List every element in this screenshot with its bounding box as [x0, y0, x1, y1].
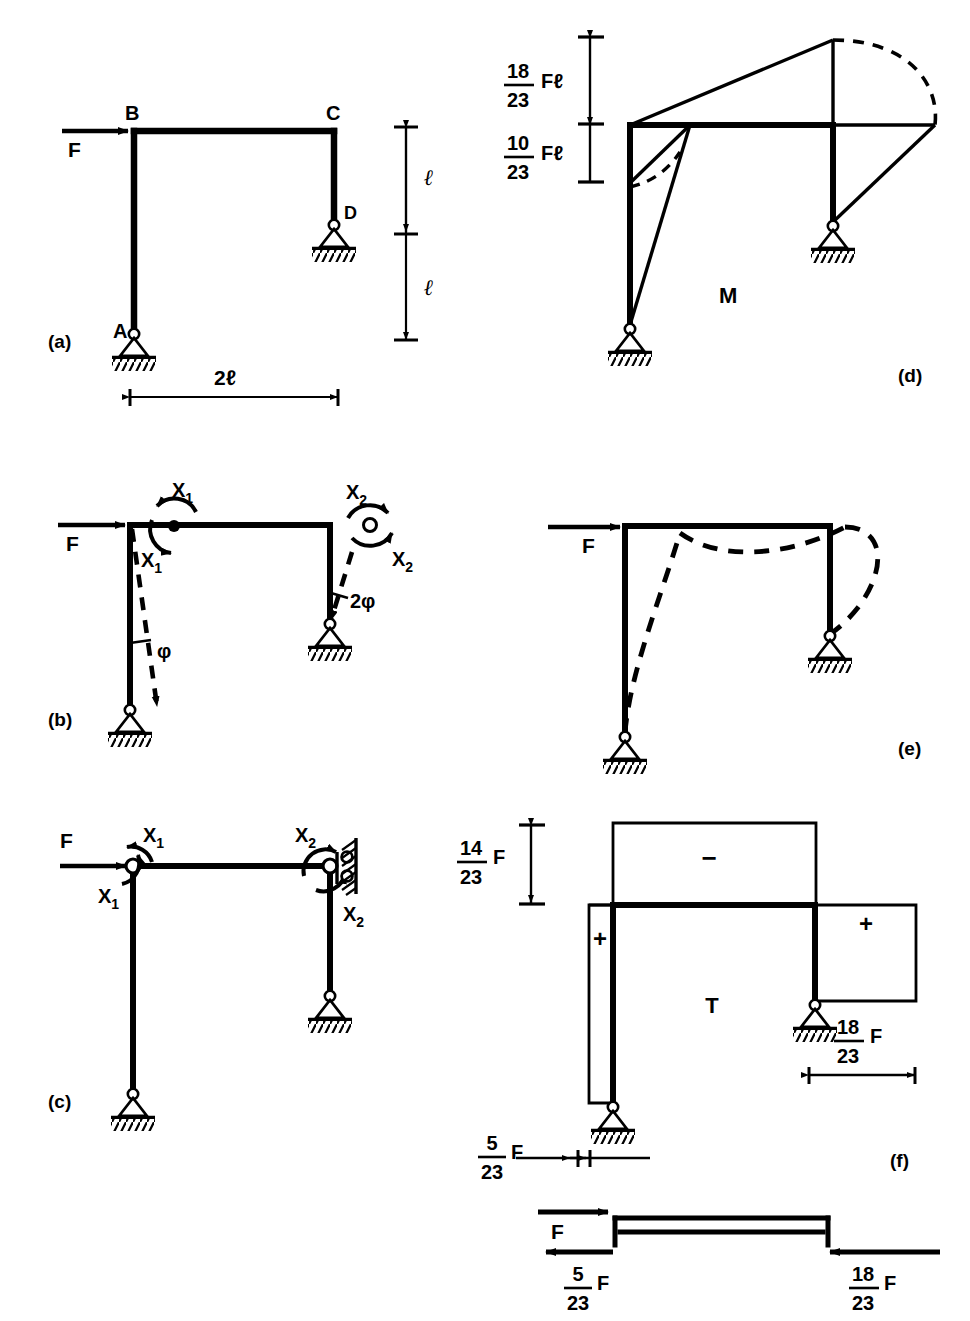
frame-outline-b	[130, 525, 330, 706]
frame-outline-a	[134, 131, 334, 330]
frac-den-top-f: 23	[460, 866, 482, 888]
frame-outline-c	[133, 866, 330, 1090]
sign-plus-left-f: +	[593, 925, 607, 952]
node-label-D: D	[344, 203, 357, 223]
equilibrium-label-F: F	[551, 1220, 564, 1243]
dimension-vertical-d	[578, 37, 604, 182]
panel-label-f: (f)	[890, 1150, 909, 1171]
panel-label-c: (c)	[48, 1091, 71, 1112]
node-label-C: C	[326, 102, 340, 124]
frac-num-bottom-d: 10	[507, 132, 529, 154]
dim-label-span: 2ℓ	[214, 366, 236, 389]
moment-arc-X2-upper	[348, 505, 388, 518]
pin-support-f-right	[793, 1000, 837, 1042]
frac-unit-top-d: Fℓ	[541, 70, 563, 92]
diagram-symbol-T: T	[705, 993, 719, 1018]
value-top-d: 18 23 Fℓ	[504, 60, 563, 111]
dimension-left-f	[516, 1150, 650, 1167]
figure-canvas: F B C D A ℓ ℓ 2ℓ (a)	[0, 0, 970, 1321]
node-dot-b-left	[168, 520, 180, 532]
dim-label-lower-l: ℓ	[424, 275, 433, 300]
panel-c: F X1 X1 X2 X2 (c)	[48, 824, 364, 1131]
label-c-X2-lower: X2	[343, 903, 364, 930]
sign-minus-f: −	[701, 843, 716, 873]
diagram-symbol-M: M	[719, 283, 737, 308]
frac-unit-left-f: F	[511, 1141, 523, 1163]
dim-label-upper-l: ℓ	[424, 165, 433, 190]
frac-num-top-f: 14	[460, 837, 483, 859]
moment-diagram-lines-d	[630, 40, 935, 325]
label-F-c: F	[60, 829, 73, 852]
dimension-top-f	[519, 825, 545, 904]
label-F-b: F	[66, 532, 79, 555]
value-left-f: 5 23 F	[478, 1132, 523, 1183]
pin-support-c-right	[308, 991, 352, 1033]
equilibrium-value-left: 5 23 F	[564, 1263, 609, 1314]
pin-support-c-left	[111, 1089, 155, 1131]
deflected-column-right-e	[830, 527, 878, 634]
node-dot-b-right	[364, 519, 377, 532]
dimension-vertical-a	[394, 127, 418, 340]
panel-label-e: (e)	[898, 738, 921, 759]
eq-frac-den-left: 23	[567, 1292, 589, 1314]
deflected-beam-e	[680, 527, 845, 552]
frac-unit-right-f: F	[870, 1025, 882, 1047]
pin-support-D	[312, 220, 356, 262]
frac-den-right-f: 23	[837, 1045, 859, 1067]
panel-label-d: (d)	[898, 365, 922, 386]
pin-support-d-right	[811, 221, 855, 263]
label-c-X2-upper: X2	[295, 824, 316, 851]
angle-marker-phi	[130, 640, 151, 643]
panel-label-a: (a)	[48, 331, 71, 352]
equilibrium-sketch: F 5 23 F 18 23 F	[538, 1212, 940, 1314]
eq-frac-num-right: 18	[852, 1263, 874, 1285]
pin-support-f-left	[591, 1102, 635, 1144]
frac-num-left-f: 5	[486, 1132, 497, 1154]
equilibrium-value-right: 18 23 F	[849, 1263, 896, 1314]
frac-unit-top-f: F	[493, 846, 505, 868]
normal-force-blocks-f	[589, 823, 916, 1103]
value-right-f: 18 23 F	[834, 1016, 882, 1067]
engineering-figure-svg: F B C D A ℓ ℓ 2ℓ (a)	[0, 0, 970, 1321]
moment-parabola-dashed-d	[833, 40, 935, 125]
panel-d: 18 23 Fℓ 10 23 Fℓ M (d)	[504, 37, 935, 386]
panel-label-b: (b)	[48, 709, 72, 730]
node-label-B: B	[125, 102, 139, 124]
eq-frac-den-right: 23	[852, 1292, 874, 1314]
label-2phi: 2φ	[350, 590, 375, 612]
value-top-f: 14 23 F	[457, 837, 505, 888]
frac-den-bottom-d: 23	[507, 161, 529, 183]
hinge-c-right	[323, 859, 337, 873]
eq-frac-unit-left: F	[597, 1272, 609, 1294]
frac-den-top-d: 23	[507, 89, 529, 111]
moment-arc-X2-lower	[352, 533, 392, 546]
label-c-X1-upper: X1	[143, 824, 164, 851]
deformed-column-right-b	[331, 552, 352, 620]
value-bottom-d: 10 23 Fℓ	[504, 132, 563, 183]
label-X2-lower: X2	[392, 548, 413, 575]
panel-a: F B C D A ℓ ℓ 2ℓ (a)	[48, 102, 433, 406]
label-X1-lower: X1	[141, 549, 162, 576]
frac-num-right-f: 18	[837, 1016, 859, 1038]
label-phi: φ	[157, 640, 171, 662]
panel-e: F (e)	[548, 526, 921, 774]
label-F-e: F	[582, 534, 595, 557]
label-F-a: F	[68, 138, 81, 161]
pin-support-b-right	[308, 619, 352, 661]
panel-f: 14 23 F − + + T 18 23 F	[457, 823, 916, 1183]
eq-frac-num-left: 5	[572, 1263, 583, 1285]
frac-num-top-d: 18	[507, 60, 529, 82]
dimension-horizontal-a	[130, 389, 338, 406]
pin-support-e-left	[603, 732, 647, 774]
panel-b: F φ 2φ X1 X1 X2 X2 (b)	[48, 479, 413, 747]
frac-den-left-f: 23	[481, 1161, 503, 1183]
eq-frac-unit-right: F	[884, 1272, 896, 1294]
pin-support-b-left	[108, 705, 152, 747]
node-label-A: A	[113, 320, 127, 342]
label-c-X1-lower: X1	[98, 885, 119, 912]
pin-support-e-right	[808, 631, 852, 673]
label-X2-upper: X2	[346, 481, 367, 508]
deflected-column-left-e	[625, 533, 680, 733]
frame-outline-e	[625, 526, 830, 733]
dimension-right-f	[809, 1067, 915, 1084]
